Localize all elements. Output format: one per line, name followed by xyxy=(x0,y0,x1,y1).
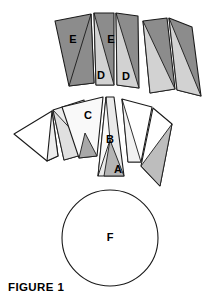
hub-circle-f: F xyxy=(62,190,158,286)
label-d-right: D xyxy=(122,70,130,82)
label-b: B xyxy=(106,133,114,145)
label-a: A xyxy=(114,163,122,175)
figure-container: E E D D xyxy=(0,0,219,300)
inner-wedge-far-left xyxy=(14,111,58,161)
label-e-left: E xyxy=(69,33,76,45)
label-d-left: D xyxy=(97,69,105,81)
figure-caption: FIGURE 1 xyxy=(8,281,64,293)
outer-wedge-ed-center-right: D xyxy=(116,13,139,88)
figure-drawing: E E D D xyxy=(0,0,219,300)
outer-wedge-ed-center-left: E D xyxy=(94,13,115,85)
label-e-right: E xyxy=(107,33,114,45)
label-f: F xyxy=(107,231,114,243)
outer-wedge-e-left: E xyxy=(55,14,94,86)
label-c: C xyxy=(84,109,92,121)
